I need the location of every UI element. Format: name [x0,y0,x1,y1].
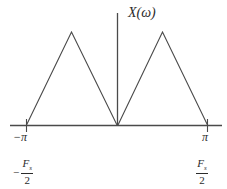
figure-container: X(ω) −π π − Fs 2 Fs 2 [0,0,227,189]
fraction-numerator: Fs [196,158,207,173]
left-triangle-lobe [27,32,118,125]
fraction-numerator: Fs [21,158,32,173]
right-triangle-lobe [118,32,208,125]
spectrum-plot-svg [0,0,227,189]
fraction-stack: Fs 2 [196,158,208,186]
y-axis-title: X(ω) [128,6,156,20]
x-tick-label-left-pi: −π [13,131,27,143]
fraction-denominator: 2 [199,174,205,186]
fraction-numerator-subscript: s [29,164,32,172]
fraction-stack: Fs 2 [21,158,33,186]
x-tick-secondary-label-right: Fs 2 [196,158,208,186]
x-tick-label-right-pi: π [202,131,208,143]
x-tick-secondary-label-left: − Fs 2 [13,158,33,186]
fraction-numerator-symbol: F [197,157,204,169]
fraction-numerator-subscript: s [204,164,207,172]
y-axis-title-text: X(ω) [128,5,156,20]
fraction-denominator: 2 [24,174,30,186]
fraction-minus-sign: − [13,167,19,178]
